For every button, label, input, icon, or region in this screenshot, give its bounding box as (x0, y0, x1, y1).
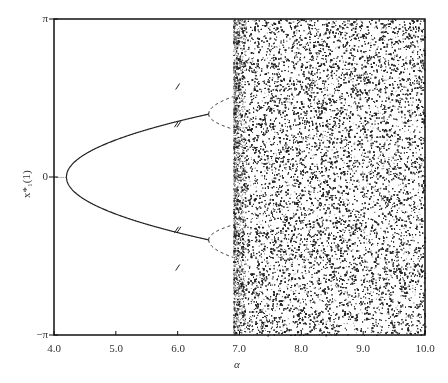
x-tick-6: 6.0 (163, 342, 193, 354)
x-tick-7: 7.0 (224, 342, 254, 354)
x-tick-9: 9.0 (348, 342, 378, 354)
y-tick-neg-pi: −π (28, 328, 48, 340)
x-tick-4: 4.0 (39, 342, 69, 354)
x-tick-10: 10.0 (410, 342, 440, 354)
x-axis-label: α (234, 358, 240, 370)
bifurcation-plot (0, 0, 448, 383)
x-tick-8: 8.0 (286, 342, 316, 354)
y-axis-label: x*₁(1) (20, 170, 32, 198)
y-tick-pi: π (28, 12, 48, 24)
x-tick-5: 5.0 (101, 342, 131, 354)
